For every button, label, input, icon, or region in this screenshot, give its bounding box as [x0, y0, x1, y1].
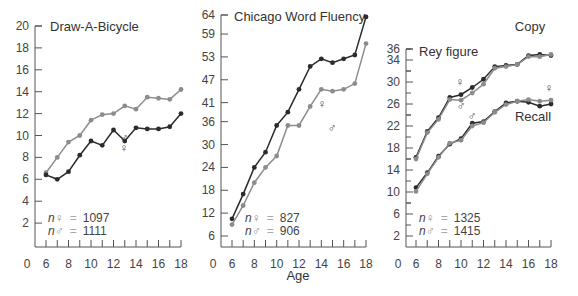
y-tick-label: 59 — [202, 27, 216, 41]
x-tick-label: 14 — [315, 257, 329, 271]
y-tick-label: 30 — [387, 75, 401, 89]
panel-rey-figure: 2610141822263034360681012141618Rey figur… — [387, 19, 558, 271]
y-tick-label: 12 — [16, 107, 30, 121]
data-point — [179, 87, 184, 92]
data-point — [425, 171, 430, 176]
x-tick-label: 10 — [84, 257, 98, 271]
y-tick-label: 36 — [202, 115, 216, 129]
x-tick-label: 16 — [337, 257, 351, 271]
data-point — [156, 127, 161, 132]
data-point — [308, 64, 313, 69]
data-point — [297, 87, 302, 92]
y-tick-label: 18 — [387, 141, 401, 155]
data-point — [526, 97, 531, 102]
panel-title: Rey figure — [419, 44, 478, 59]
female-symbol: ♀ — [456, 75, 465, 89]
data-point — [330, 89, 335, 94]
data-point — [77, 133, 82, 138]
x-tick-label: 10 — [270, 257, 284, 271]
data-point — [252, 165, 257, 170]
data-point — [515, 62, 520, 67]
y-tick-label: 2 — [22, 216, 29, 230]
n-female-label: n♀=827 — [245, 211, 300, 225]
y-tick-label: 41 — [202, 96, 216, 110]
series-line — [232, 44, 366, 225]
data-point — [414, 157, 419, 162]
data-point — [241, 203, 246, 208]
data-point — [481, 120, 486, 125]
data-point — [504, 64, 509, 69]
series-line — [416, 55, 551, 158]
data-point — [66, 140, 71, 145]
data-point — [230, 222, 235, 227]
y-tick-label: 14 — [387, 163, 401, 177]
x-tick-label: 0 — [210, 257, 217, 271]
data-point — [252, 180, 257, 185]
y-tick-label: 16 — [16, 63, 30, 77]
x-tick-label: 18 — [174, 257, 188, 271]
x-tick-label: 6 — [413, 257, 420, 271]
data-point — [167, 97, 172, 102]
y-tick-label: 4 — [22, 194, 29, 208]
male-symbol: ♂ — [468, 109, 477, 123]
data-point — [285, 110, 290, 115]
copy-label: Copy — [515, 19, 546, 34]
data-point — [425, 130, 430, 135]
y-tick-label: 22 — [387, 119, 401, 133]
data-point — [297, 123, 302, 128]
data-point — [447, 141, 452, 146]
data-point — [537, 99, 542, 104]
data-point — [470, 85, 475, 90]
data-point — [470, 91, 475, 96]
y-tick-label: 18 — [202, 183, 216, 197]
data-point — [330, 60, 335, 65]
y-tick-label: 53 — [202, 50, 216, 64]
data-point — [89, 139, 94, 144]
data-point — [111, 128, 116, 133]
data-point — [134, 125, 139, 130]
y-tick-label: 6 — [208, 229, 215, 243]
data-point — [263, 165, 268, 170]
x-tick-label: 6 — [43, 257, 50, 271]
female-symbol: ♀ — [318, 97, 327, 111]
data-point — [549, 52, 554, 57]
x-tick-label: 16 — [152, 257, 166, 271]
y-tick-label: 10 — [387, 185, 401, 199]
data-point — [481, 82, 486, 87]
y-tick-label: 18 — [16, 41, 30, 55]
n-male-label: n♂=906 — [245, 224, 300, 238]
data-point — [145, 95, 150, 100]
data-point — [274, 123, 279, 128]
y-tick-label: 30 — [202, 138, 216, 152]
data-point — [308, 104, 313, 109]
data-point — [436, 117, 441, 122]
data-point — [274, 154, 279, 159]
x-tick-label: 12 — [107, 257, 121, 271]
x-tick-label: 14 — [499, 257, 513, 271]
data-point — [549, 98, 554, 103]
data-point — [364, 15, 369, 20]
y-tick-label: 47 — [202, 73, 216, 87]
data-point — [122, 104, 127, 109]
data-point — [134, 107, 139, 112]
y-tick-label: 12 — [202, 206, 216, 220]
data-point — [66, 169, 71, 174]
female-symbol: ♀ — [545, 81, 554, 95]
series-line — [416, 55, 551, 160]
data-point — [167, 124, 172, 129]
x-tick-label: 8 — [435, 257, 442, 271]
female-symbol: ♀ — [120, 141, 129, 155]
y-tick-label: 64 — [202, 8, 216, 22]
data-point — [537, 104, 542, 109]
recall-label: Recall — [515, 109, 551, 124]
panel-title: Chicago Word Fluency — [234, 9, 366, 24]
data-point — [352, 81, 357, 86]
data-point — [459, 138, 464, 143]
y-tick-label: 6 — [22, 172, 29, 186]
x-tick-label: 8 — [65, 257, 72, 271]
data-point — [156, 96, 161, 101]
data-point — [179, 111, 184, 116]
data-point — [285, 123, 290, 128]
data-point — [470, 124, 475, 129]
x-tick-label: 10 — [454, 257, 468, 271]
